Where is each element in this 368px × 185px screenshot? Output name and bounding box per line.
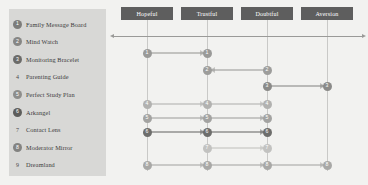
legend-label-4: Parenting Guide — [26, 73, 69, 80]
legend-marker-6: 6 — [13, 108, 22, 117]
legend-item-4[interactable]: 4Parenting Guide — [13, 70, 106, 84]
legend-item-6[interactable]: 6Arkangel — [13, 105, 106, 119]
arrow-shaft — [211, 131, 264, 133]
flow-node-r4-c2[interactable]: 4 — [203, 100, 212, 109]
arrow-shaft — [151, 131, 204, 133]
column-header-1[interactable]: Hopeful — [121, 7, 173, 20]
arrow-shaft — [211, 69, 264, 71]
legend-item-9[interactable]: 9Dreamland — [13, 158, 106, 172]
arrow-shaft — [211, 103, 264, 105]
legend-item-8[interactable]: 8Moderator Mirror — [13, 140, 106, 154]
arrow-shaft — [151, 117, 204, 119]
axis-arrow-right-icon — [362, 34, 366, 38]
legend-marker-4: 4 — [13, 72, 22, 81]
flow-node-r5-c2[interactable]: 5 — [203, 114, 212, 123]
flow-node-r7-c3[interactable]: 7 — [263, 144, 272, 153]
axis-arrow-left-icon — [110, 34, 114, 38]
flow-node-r3-c3[interactable]: 3 — [263, 82, 272, 91]
legend-marker-7: 7 — [13, 125, 22, 134]
flow-arrow-r5-2 — [211, 116, 264, 119]
flow-arrow-r6-1 — [151, 130, 204, 133]
column-header-2[interactable]: Trustful — [181, 7, 233, 20]
column-header-label-2: Trustful — [197, 11, 218, 17]
column-header-label-3: Doubtful — [255, 11, 278, 17]
legend-label-7: Contact Lens — [26, 126, 61, 133]
legend-marker-8: 8 — [13, 143, 22, 152]
column-guide-4 — [327, 20, 328, 171]
flow-arrow-r3-1 — [271, 84, 324, 87]
flow-node-r4-c1[interactable]: 4 — [143, 100, 152, 109]
legend-item-5[interactable]: 5Perfect Study Plan — [13, 87, 106, 101]
flow-node-r7-c2[interactable]: 7 — [203, 144, 212, 153]
column-header-3[interactable]: Doubtful — [241, 7, 293, 20]
legend-label-3: Monitoring Bracelet — [26, 56, 79, 63]
legend-marker-9: 9 — [13, 160, 22, 169]
flow-arrow-r2-1 — [211, 68, 264, 71]
legend-label-2: Mind Watch — [26, 38, 58, 45]
arrow-shaft — [151, 52, 204, 54]
arrow-shaft — [151, 164, 204, 166]
flow-node-r4-c3[interactable]: 4 — [263, 100, 272, 109]
legend-marker-5: 5 — [13, 90, 22, 99]
arrow-shaft — [271, 85, 324, 87]
arrow-shaft — [151, 103, 204, 105]
flow-node-r1-c1[interactable]: 1 — [143, 49, 152, 58]
flow-arrow-r4-1 — [151, 102, 204, 105]
flow-node-r8-c3[interactable]: 8 — [263, 161, 272, 170]
legend-item-7[interactable]: 7Contact Lens — [13, 123, 106, 137]
flow-node-r6-c2[interactable]: 6 — [203, 128, 212, 137]
legend-item-1[interactable]: 1Family Message Board — [13, 17, 106, 31]
arrow-shaft — [211, 117, 264, 119]
legend-marker-1: 1 — [13, 20, 22, 29]
axis-line — [114, 36, 362, 37]
flow-node-r1-c2[interactable]: 1 — [203, 49, 212, 58]
flow-arrow-r6-2 — [211, 130, 264, 133]
column-header-4[interactable]: Aversion — [301, 7, 353, 20]
flow-node-r2-c2[interactable]: 2 — [203, 66, 212, 75]
legend-marker-3: 3 — [13, 55, 22, 64]
flow-node-r8-c4[interactable]: 8 — [323, 161, 332, 170]
flow-node-r5-c3[interactable]: 5 — [263, 114, 272, 123]
flow-arrow-r5-1 — [151, 116, 204, 119]
column-guide-1 — [147, 20, 148, 171]
legend-item-3[interactable]: 3Monitoring Bracelet — [13, 52, 106, 66]
arrow-shaft — [211, 147, 264, 149]
legend-panel: 1Family Message Board2Mind Watch3Monitor… — [9, 9, 106, 176]
legend-marker-2: 2 — [13, 37, 22, 46]
flow-arrow-r7-1 — [211, 146, 264, 149]
diagram-canvas: 1Family Message Board2Mind Watch3Monitor… — [0, 0, 368, 185]
legend-item-2[interactable]: 2Mind Watch — [13, 35, 106, 49]
flow-node-r8-c1[interactable]: 8 — [143, 161, 152, 170]
flow-arrow-r4-2 — [211, 102, 264, 105]
legend-label-5: Perfect Study Plan — [26, 91, 75, 98]
flow-node-r2-c3[interactable]: 2 — [263, 66, 272, 75]
legend-label-1: Family Message Board — [26, 21, 86, 28]
column-header-label-1: Hopeful — [136, 11, 157, 17]
column-header-label-4: Aversion — [315, 11, 338, 17]
flow-node-r8-c2[interactable]: 8 — [203, 161, 212, 170]
flow-arrow-r8-3 — [271, 163, 324, 166]
legend-label-8: Moderator Mirror — [26, 144, 73, 151]
arrow-shaft — [271, 164, 324, 166]
flow-node-r6-c1[interactable]: 6 — [143, 128, 152, 137]
legend-label-6: Arkangel — [26, 109, 50, 116]
flow-arrow-r8-2 — [211, 163, 264, 166]
arrow-shaft — [211, 164, 264, 166]
flow-arrow-r1-1 — [151, 51, 204, 54]
flow-arrow-r8-1 — [151, 163, 204, 166]
flow-node-r3-c4[interactable]: 3 — [323, 82, 332, 91]
legend-label-9: Dreamland — [26, 161, 55, 168]
flow-node-r6-c3[interactable]: 6 — [263, 128, 272, 137]
flow-node-r5-c1[interactable]: 5 — [143, 114, 152, 123]
